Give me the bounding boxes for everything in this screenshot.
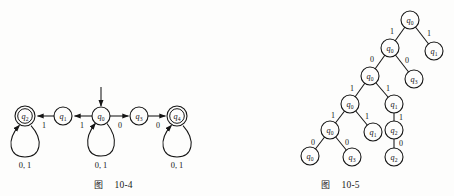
state-q2[interactable]: q2 <box>15 106 35 126</box>
tree-edge-label-n7-n10: 0 <box>311 138 315 147</box>
tree-edge-label-n0-n2: 1 <box>427 29 431 38</box>
edge-label-q0-q1: 1 <box>80 121 84 130</box>
tree-edge-label-n9-n12: 0 <box>399 139 403 148</box>
state-q4[interactable]: q4 <box>167 106 187 126</box>
tree-drawing: q0 q0 q1 q0 q3 q0 <box>227 0 454 196</box>
tree-edge-label-n7-n11: 0 <box>345 138 349 147</box>
tree-edge-label-n3-n6: 1 <box>386 84 390 93</box>
tree-edge-label-n0-n1: 1 <box>390 27 394 36</box>
state-q1[interactable]: q1 <box>54 107 72 125</box>
self-loop-label-q4: 0, 1 <box>171 161 184 170</box>
tree-edge-label-n5-n8: 1 <box>365 112 369 121</box>
tree-node-n11[interactable]: q3 <box>343 148 361 166</box>
state-q0[interactable]: q0 <box>92 107 110 125</box>
tree-node-n5[interactable]: q0 <box>341 95 359 113</box>
tree-node-n8[interactable]: q1 <box>364 123 382 141</box>
tree-node-n3[interactable]: q0 <box>361 67 379 85</box>
self-loop-q0 <box>88 123 115 156</box>
tree-node-n9[interactable]: q2 <box>385 121 403 139</box>
caption-cjk-label: 图 <box>321 180 330 190</box>
tree-edge-label-n1-n3: 0 <box>370 55 374 64</box>
edge-label-q1-q2: 1 <box>42 121 46 130</box>
caption-number: 10-4 <box>114 180 132 190</box>
caption-figure-10-4: 图10-4 <box>0 178 227 191</box>
tree-node-n7[interactable]: q0 <box>321 121 339 139</box>
figure-automaton: q2 q1 q0 q3 q4 1 <box>0 0 227 196</box>
tree-edge-label-n3-n5: 1 <box>350 84 354 93</box>
tree-edge-label-n1-n4: 0 <box>405 56 409 65</box>
caption-figure-10-5: 图10-5 <box>227 178 454 191</box>
self-loop-q4 <box>163 125 191 157</box>
figure-page: q2 q1 q0 q3 q4 1 <box>0 0 454 196</box>
caption-cjk-label: 图 <box>94 180 103 190</box>
self-loop-q2 <box>11 125 39 157</box>
tree-node-n6[interactable]: q1 <box>385 95 403 113</box>
edge-label-q3-q4: 0 <box>156 121 160 130</box>
self-loop-label-q2: 0, 1 <box>19 161 32 170</box>
tree-node-n2[interactable]: q1 <box>425 42 443 60</box>
tree-node-n1[interactable]: q0 <box>381 39 399 57</box>
state-q3[interactable]: q3 <box>130 107 148 125</box>
tree-edge-label-n6-n9: 1 <box>399 113 403 122</box>
self-loop-label-q0: 0, 1 <box>95 161 108 170</box>
caption-number: 10-5 <box>341 180 359 190</box>
automaton-drawing: q2 q1 q0 q3 q4 1 <box>0 0 227 196</box>
tree-node-n10[interactable]: q0 <box>301 147 319 165</box>
tree-node-n0[interactable]: q0 <box>401 11 419 29</box>
tree-node-n12[interactable]: q2 <box>385 148 403 166</box>
edge-label-q0-q3: 0 <box>118 121 122 130</box>
figure-tree: q0 q0 q1 q0 q3 q0 <box>227 0 454 196</box>
tree-edge-label-n5-n7: 1 <box>331 111 335 120</box>
tree-node-n4[interactable]: q3 <box>405 70 423 88</box>
